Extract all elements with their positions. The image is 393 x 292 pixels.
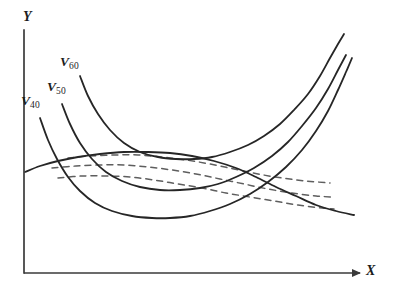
curve-label-v60: V60 xyxy=(60,55,79,71)
y-axis-label: Y xyxy=(23,10,32,24)
curve-label-v50-subscript: 50 xyxy=(56,86,66,96)
curve-label-v40-base: V xyxy=(21,93,30,108)
curve-envelope-solid xyxy=(25,152,354,215)
dashed-curve-group xyxy=(52,155,334,209)
chart-svg xyxy=(0,0,393,292)
curve-v60 xyxy=(80,34,344,159)
curve-label-v40-subscript: 40 xyxy=(30,100,40,110)
curve-label-v60-base: V xyxy=(60,54,69,69)
curve-label-v50: V50 xyxy=(47,80,66,96)
curve-label-v50-base: V xyxy=(47,79,56,94)
figure-canvas: Y X V40 V50 V60 xyxy=(0,0,393,292)
x-axis-label: X xyxy=(366,264,375,278)
curve-label-v60-subscript: 60 xyxy=(69,61,79,71)
curve-dashed-middle xyxy=(52,165,332,197)
curve-label-v40: V40 xyxy=(21,94,40,110)
